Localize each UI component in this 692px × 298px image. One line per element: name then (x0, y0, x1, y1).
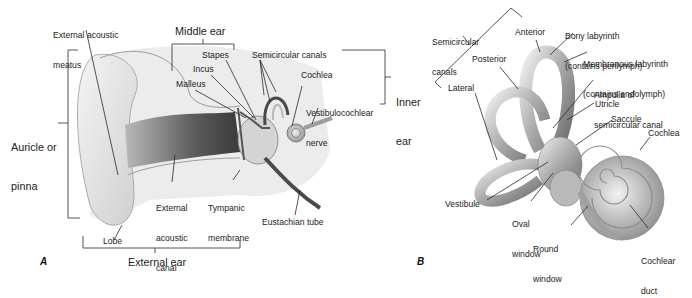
label-round-window: Round window (533, 224, 562, 298)
label-utricle: Utricle (595, 99, 619, 109)
panel-letter-a: A (40, 256, 47, 267)
label-tympanic-membrane: Tympanic membrane (208, 183, 249, 263)
label-external-ear: External ear (128, 256, 186, 269)
label-cochlear-duct: Cochlear duct (641, 236, 675, 298)
label-vestibule: Vestibule (445, 199, 480, 209)
label-line: canals (432, 67, 479, 77)
label-ampulla: Ampulla of semicircular canal (594, 70, 663, 150)
label-anterior: Anterior (515, 27, 545, 37)
label-vestibulocochlear-nerve: Vestibulocochlear nerve (306, 88, 373, 168)
label-line: Semicircular (432, 37, 479, 47)
label-line: Auricle or (11, 141, 57, 154)
label-line: duct (641, 286, 675, 296)
label-lateral: Lateral (448, 83, 474, 93)
label-line: acoustic (156, 233, 188, 243)
label-line: External acoustic (53, 30, 118, 40)
panel-letter-b: B (417, 256, 424, 267)
label-stapes: Stapes (202, 50, 229, 60)
label-cochlea-b: Cochlea (648, 128, 680, 138)
label-line: ear (396, 135, 421, 148)
label-line: External (156, 203, 188, 213)
label-line: Cochlear (641, 256, 675, 266)
label-external-acoustic-meatus: External acoustic meatus (53, 10, 118, 90)
label-semicircular-canals-a: Semicircular canals (252, 50, 327, 60)
label-line: membrane (208, 233, 249, 243)
label-eustachian-tube: Eustachian tube (262, 217, 324, 227)
label-line: nerve (306, 138, 373, 148)
label-line: Inner (396, 96, 421, 109)
label-incus: Incus (193, 64, 214, 74)
label-line: window (533, 274, 562, 284)
label-cochlea-a: Cochlea (301, 70, 333, 80)
label-line: meatus (53, 60, 118, 70)
label-line: Membranous labyrinth (583, 59, 668, 69)
label-inner-ear: Inner ear (396, 70, 421, 174)
label-lobe: Lobe (103, 236, 122, 246)
label-saccule: Saccule (611, 114, 642, 124)
label-external-acoustic-canal: External acoustic canal (156, 183, 188, 293)
label-auricle-or-pinna: Auricle or pinna (11, 115, 57, 219)
label-malleus: Malleus (176, 79, 206, 89)
label-line: pinna (11, 180, 57, 193)
label-line: Round (533, 244, 562, 254)
label-middle-ear: Middle ear (175, 25, 225, 38)
label-line: Vestibulocochlear (306, 108, 373, 118)
label-line: Tympanic (208, 203, 249, 213)
label-posterior: Posterior (472, 54, 506, 64)
